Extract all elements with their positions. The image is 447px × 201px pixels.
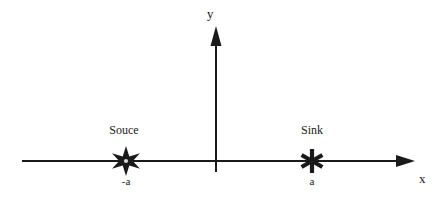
source-coordinate-label: -a — [86, 176, 166, 187]
figure-canvas: y x Souce -a Sink a — [0, 0, 447, 201]
y-axis-arrowhead — [211, 26, 222, 46]
diagram-vector-layer — [0, 0, 447, 201]
x-axis-label: x — [419, 172, 426, 185]
x-axis-arrowhead — [396, 155, 415, 167]
sink-coordinate-label: a — [272, 176, 352, 187]
source-label: Souce — [84, 124, 164, 136]
sink-label: Sink — [272, 124, 352, 136]
y-axis-label: y — [207, 7, 214, 20]
